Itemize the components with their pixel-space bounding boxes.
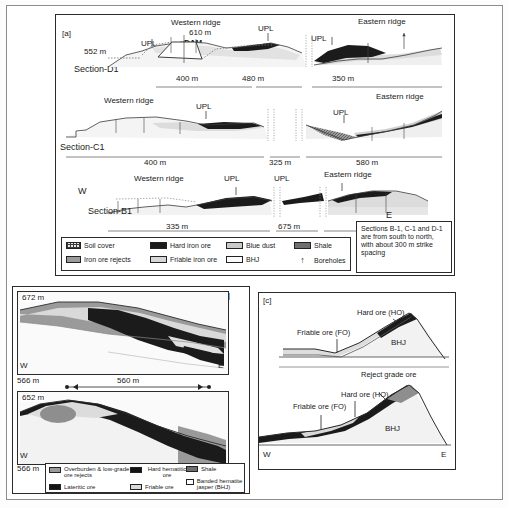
legend-swatch-iron-ore-rejects	[66, 256, 81, 263]
legend-swatch-hard-hematitic-ore	[130, 467, 142, 473]
b1-upl-label-2: UPL	[274, 175, 290, 183]
legend-label-friable-ore-b: Friable ore	[145, 484, 174, 490]
legend-swatch-overburden	[49, 467, 61, 473]
panel-b-upper-east-marker: E	[218, 362, 223, 370]
legend-label-hard-hematitic-ore: Hard hematitic ore	[145, 466, 189, 479]
panel-b-lower-east-marker: E	[218, 452, 223, 460]
panel-c-graphic	[259, 293, 457, 471]
legend-swatch-soil-cover	[66, 242, 81, 249]
panel-b-lower-graphic	[18, 392, 228, 464]
panel-b-upper-bottom-elevation: 566 m	[17, 377, 39, 385]
c1-western-ridge-label: Western ridge	[104, 97, 154, 105]
c1-distance-2: 325 m	[269, 159, 291, 167]
c1-eastern-ridge-label: Eastern ridge	[376, 93, 424, 101]
legend-label-lateritic-ore: Lateritic ore	[64, 484, 95, 490]
legend-label-friable-iron-ore: Friable iron ore	[170, 256, 217, 263]
legend-label-bhj: BHJ	[246, 256, 259, 263]
legend-swatch-bhj-b	[186, 479, 194, 485]
panel-c-upper-bhj-label: BHJ	[391, 339, 406, 347]
legend-label-hard-iron-ore: Hard iron ore	[170, 242, 211, 249]
d1-profile	[108, 33, 442, 87]
legend-swatch-shale-b	[186, 466, 198, 472]
b1-east-marker: E	[386, 211, 392, 220]
legend-swatch-friable-ore-b	[130, 484, 142, 490]
panel-c-east-marker: E	[441, 451, 446, 459]
panel-b-lower-west-marker: W	[20, 452, 28, 460]
b1-distance-2: 675 m	[278, 223, 300, 231]
legend-label-soil-cover: Soil cover	[84, 242, 115, 249]
panel-c: [c]	[258, 292, 456, 470]
legend-swatch-hard-iron-ore	[150, 242, 167, 249]
panel-b-width-arrow	[63, 383, 213, 391]
legend-swatch-shale	[294, 242, 311, 249]
panel-b-lower-bottom-elevation: 566 m	[17, 465, 39, 473]
panel-c-lower-friable-ore-label: Friable ore (FO)	[293, 403, 346, 411]
b1-distance-1: 335 m	[166, 223, 188, 231]
legend-label-iron-ore-rejects: Iron ore rejects	[84, 256, 131, 263]
section-c1-name: Section-C1	[60, 143, 105, 152]
panel-a-note-box: Sections B-1, C-1 and D-1 are from south…	[356, 221, 452, 273]
panel-b-upper-west-marker: W	[20, 362, 28, 370]
legend-swatch-friable-iron-ore	[150, 256, 167, 263]
panel-c-upper-graphic	[279, 313, 449, 367]
panel-a: [a] Western ridge 610 m DAM UPL UPL UPL …	[55, 14, 455, 276]
panel-c-upper-friable-ore-label: Friable ore (FO)	[297, 329, 350, 337]
legend-swatch-lateritic-ore	[49, 484, 61, 490]
panel-b-upper-top-elevation: 672 m	[21, 294, 45, 302]
figure-root: [a] Western ridge 610 m DAM UPL UPL UPL …	[0, 0, 509, 508]
panel-c-lower-hard-ore-label: Hard ore (HO)	[341, 391, 389, 399]
legend-label-blue-dust: Blue dust	[246, 242, 275, 249]
panel-c-lower-reject-grade-label: Reject grade ore	[361, 371, 411, 379]
legend-label-boreholes: Boreholes	[314, 257, 346, 264]
c1-distance-3: 580 m	[356, 159, 378, 167]
b1-western-ridge-label: Western ridge	[134, 175, 184, 183]
section-b1-name: Section-B1	[88, 207, 132, 216]
panel-b-lower-section: 652 m W E	[17, 391, 229, 465]
panel-c-upper-hard-ore-label: Hard ore (HO)	[357, 309, 405, 317]
legend-swatch-blue-dust	[226, 242, 243, 249]
legend-label-shale-b: Shale	[201, 466, 216, 472]
c1-profile	[66, 109, 442, 157]
panel-b: [b] 672 m W E 566 m 560 m	[12, 286, 250, 494]
legend-label-bhj-b: Banded hematite jasper (BHJ)	[197, 478, 244, 491]
c1-distance-1: 400 m	[144, 159, 166, 167]
legend-label-overburden: Overburden & low-grade ore rejects	[64, 466, 130, 479]
b1-eastern-ridge-label: Eastern ridge	[324, 171, 372, 179]
c1-upl-label-1: UPL	[196, 103, 212, 111]
b1-west-marker: W	[78, 187, 87, 196]
panel-a-note-text: Sections B-1, C-1 and D-1 are from south…	[361, 225, 443, 256]
legend-label-shale: Shale	[314, 242, 332, 249]
panel-b-upper-graphic	[18, 292, 228, 374]
panel-b-legend: Overburden & low-grade ore rejects Later…	[45, 463, 245, 493]
c1-upl-label-2: UPL	[333, 109, 349, 117]
panel-b-upper-section: 672 m W E	[17, 291, 229, 375]
panel-c-lower-bhj-label: BHJ	[385, 425, 400, 433]
panel-a-legend: Soil cover Iron ore rejects Hard iron or…	[61, 237, 351, 271]
borehole-arrow-icon: ↑	[294, 256, 311, 265]
legend-swatch-bhj	[226, 256, 243, 263]
panel-c-west-marker: W	[263, 451, 271, 459]
panel-b-lower-top-elevation: 652 m	[21, 394, 45, 402]
b1-upl-label-1: UPL	[224, 175, 240, 183]
